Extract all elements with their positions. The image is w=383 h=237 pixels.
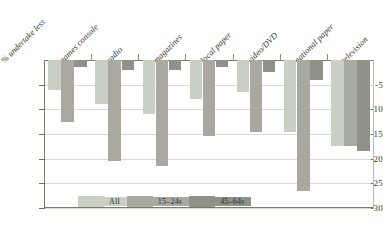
bar — [284, 60, 297, 132]
legend-label: All — [104, 197, 127, 206]
bar — [122, 60, 135, 70]
bar — [263, 60, 276, 72]
bar-group — [91, 60, 138, 208]
bar — [48, 60, 61, 90]
legend-item: 15–24s — [127, 195, 189, 208]
bar-group — [138, 60, 185, 208]
gridline — [44, 208, 374, 209]
bar — [156, 60, 169, 166]
plot-area — [44, 60, 374, 208]
bar — [357, 60, 370, 151]
legend-swatch — [78, 196, 104, 207]
bar-group — [327, 60, 374, 208]
x-axis-category-label: national paper — [292, 21, 336, 65]
x-axis-category-label: games console — [56, 22, 99, 65]
legend-swatch — [189, 196, 215, 207]
legend-item: 45–64s — [189, 195, 251, 208]
chart-legend: All15–24s45–64s — [78, 195, 251, 208]
bar-group — [185, 60, 232, 208]
bar — [108, 60, 121, 161]
y-axis-title: % undertake less — [0, 17, 47, 65]
bar — [237, 60, 250, 92]
bar — [216, 60, 229, 67]
bar — [143, 60, 156, 114]
bar-group — [44, 60, 91, 208]
bar-group — [233, 60, 280, 208]
bar — [310, 60, 323, 80]
legend-label: 15–24s — [153, 197, 189, 206]
bar — [61, 60, 74, 122]
bar-group — [280, 60, 327, 208]
legend-swatch — [127, 196, 153, 207]
bar — [331, 60, 344, 146]
bar — [190, 60, 203, 99]
bar — [250, 60, 263, 132]
bar — [95, 60, 108, 104]
legend-item: All — [78, 195, 127, 208]
bar-chart: % undertake less games consoleradiomagaz… — [0, 0, 383, 237]
bar — [297, 60, 310, 191]
y-axis-tick-mark — [39, 208, 45, 209]
bar — [203, 60, 216, 136]
legend-label: 45–64s — [215, 197, 251, 206]
bar — [344, 60, 357, 146]
bar — [74, 60, 87, 67]
bar — [169, 60, 182, 70]
